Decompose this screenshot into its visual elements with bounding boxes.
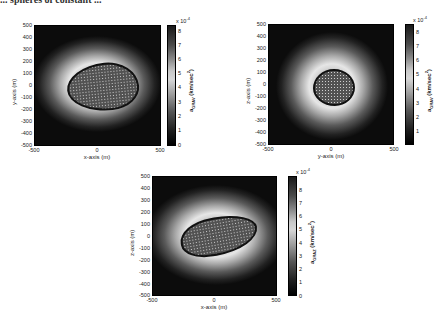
x-tick: 0 xyxy=(204,297,224,303)
x-tick: 500 xyxy=(266,297,286,303)
y-axis-label: z-axis (m) xyxy=(129,230,135,256)
colorbar-exponent: x 10-4 xyxy=(296,167,310,175)
x-tick: -500 xyxy=(142,297,162,303)
asteroid-cross-section xyxy=(177,211,260,262)
heatmap-plot xyxy=(152,176,277,296)
colorbar xyxy=(288,176,297,296)
colorbar-label: aGRAZ (km/sec2) xyxy=(307,221,317,264)
panel-xz: 500 400 300 200 100 0 -100 -200 -300 -40… xyxy=(0,0,442,322)
x-axis-label: x-axis (m) xyxy=(184,304,244,310)
